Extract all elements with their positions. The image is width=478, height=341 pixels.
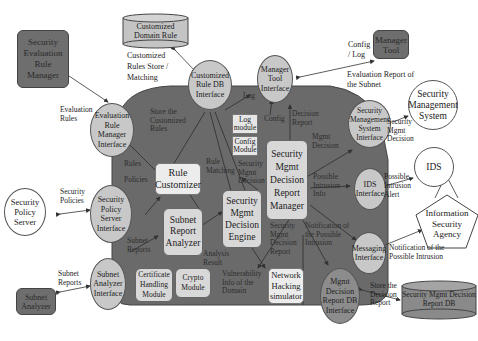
edge-label-possible-intrusion-alert: Possible Intrusion Alert bbox=[384, 172, 420, 199]
edge-label-customized-rules-store-matching: Customized Rules Store / Matching bbox=[127, 50, 177, 83]
security-mgmt-decision-report-db-label: Security Mgmt Decision Report DB bbox=[402, 282, 476, 316]
edge-label-security-mgmt-decision-report: Security Mgmt Decision Report bbox=[270, 222, 302, 256]
ids-node: IDS bbox=[414, 147, 454, 187]
system-architecture-diagram: Security Evaluation Rule Manager Customi… bbox=[0, 0, 478, 341]
edge-label-store-decision-report: Store the Decision Report bbox=[370, 282, 400, 308]
edge-label-possible-intrusion-info: Possible Intrusion Info bbox=[313, 173, 349, 199]
certificate-handling-module-box: Certificate Handling Module bbox=[135, 268, 173, 302]
edge-label-mgmt-decision: Mgmt Decision bbox=[312, 133, 342, 150]
edge-label-config: Config bbox=[264, 115, 285, 124]
edge-label-vulnerability-info: Vulnerability Info of the Domain bbox=[222, 270, 270, 296]
edge-label-analysis-result: Analysis Result bbox=[203, 250, 233, 267]
ids-interface-node: IDS Interface bbox=[354, 168, 386, 210]
security-mgmt-decision-report-manager-box: Security Mgmt Decision Report Manager bbox=[266, 140, 308, 220]
rule-customizer-box: Rule Customizer bbox=[155, 163, 201, 195]
edge-label-rules: Rules bbox=[124, 160, 141, 169]
security-policy-server-interface-node: Security Policy Server Interface bbox=[90, 185, 132, 243]
security-mgmt-decision-engine-box: Security Mgmt Decision Engine bbox=[222, 190, 262, 248]
edge-label-notification-possible-intrusion-out: Notification of the Possible Intrusion bbox=[389, 244, 449, 261]
manager-tool-interface-node: Manager Tool Interface bbox=[257, 55, 293, 103]
customized-domain-rule-db-label: Customized Domain Rule bbox=[123, 16, 188, 46]
edge-label-notification-possible-intrusion-in: Notification of the Possible Intrusion bbox=[305, 222, 355, 248]
network-hacking-simulator-box: Network Hacking simulator bbox=[268, 268, 304, 304]
edge-label-decision-report: Decision Report bbox=[292, 110, 322, 127]
subnet-report-analyzer-box: Subnet Report Analyzer bbox=[163, 208, 203, 256]
crypto-module-box: Crypto Module bbox=[175, 268, 211, 298]
edge-label-evaluation-rules: Evaluation Rules bbox=[60, 106, 100, 123]
edge-label-security-mgmt-decision-in: Security Mgmt Decision bbox=[238, 160, 266, 186]
edge-label-security-mgmt-decision-out: Security Mgmt Decision bbox=[387, 118, 425, 144]
subnet-analyzer-box: Subnet Analyzer bbox=[16, 288, 56, 315]
manager-tool-box: Manager Tool bbox=[373, 30, 409, 59]
edge-label-subnet-reports-out: Subnet Reports bbox=[58, 270, 88, 287]
edge-label-policies: Policies bbox=[124, 176, 148, 185]
edge-label-log: Log bbox=[243, 92, 255, 101]
subnet-analyzer-interface-node: Subnet Analyzer Interface bbox=[90, 258, 126, 310]
messaging-interface-node: Messaging Interface bbox=[352, 232, 386, 274]
edge-label-subnet-reports-in: Subnet Reports bbox=[127, 237, 157, 254]
edge-label-store-customized-rules: Store the Customized Rules bbox=[150, 108, 192, 134]
log-module-box: Log module bbox=[232, 114, 258, 134]
security-evaluation-rule-manager-box: Security Evaluation Rule Manager bbox=[17, 30, 69, 88]
security-management-system-interface-node: Security Management System Interface bbox=[348, 100, 391, 148]
mgmt-decision-report-db-interface-node: Mgmt Decision Report DB Interface bbox=[320, 268, 360, 324]
edge-label-rule-matching: Rule Matching bbox=[206, 158, 232, 175]
config-module-box: Config Module bbox=[232, 136, 258, 156]
information-security-agency-label: Information Security Agency bbox=[418, 202, 476, 246]
edge-label-config-log: Config / Log bbox=[348, 40, 372, 60]
security-policy-server-node: Security Policy Server bbox=[4, 188, 46, 236]
edge-label-security-policies: Security Policies bbox=[60, 188, 92, 205]
edge-label-evaluation-report-of-subnet: Evaluation Report of the Subnet bbox=[347, 70, 417, 90]
customized-rule-db-interface-node: Customized Rule DB Interface bbox=[188, 60, 232, 110]
